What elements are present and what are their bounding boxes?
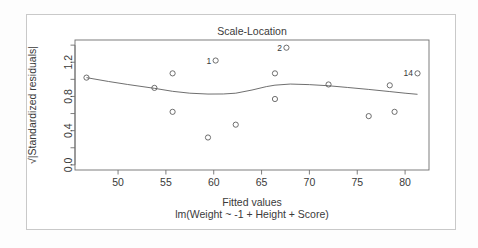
data-point bbox=[233, 122, 238, 127]
chart-title: Scale-Location bbox=[217, 25, 287, 37]
x-tick-label: 55 bbox=[160, 176, 172, 188]
y-tick-label: 0.0 bbox=[62, 157, 74, 172]
point-label: 14 bbox=[404, 68, 414, 78]
y-tick-label: 0.8 bbox=[62, 89, 74, 104]
data-point bbox=[284, 45, 289, 50]
data-point bbox=[392, 109, 397, 114]
data-point bbox=[170, 109, 175, 114]
y-tick-label: 1.2 bbox=[62, 55, 74, 70]
chart-screenshot: 0.00.40.81.2505560657075801214Scale-Loca… bbox=[0, 0, 478, 248]
data-point bbox=[272, 71, 277, 76]
x-tick-label: 60 bbox=[208, 176, 220, 188]
data-point bbox=[387, 83, 392, 88]
data-point bbox=[170, 71, 175, 76]
scale-location-plot: 0.00.40.81.2505560657075801214Scale-Loca… bbox=[0, 0, 478, 248]
x-tick-label: 80 bbox=[399, 176, 411, 188]
x-tick-label: 75 bbox=[351, 176, 363, 188]
loess-smooth-line bbox=[86, 78, 417, 95]
data-point bbox=[326, 82, 331, 87]
y-tick-label: 0.4 bbox=[62, 123, 74, 138]
x-tick-label: 70 bbox=[304, 176, 316, 188]
data-point bbox=[415, 71, 420, 76]
y-axis-title: √|Standardized residuals| bbox=[26, 46, 38, 164]
data-point bbox=[272, 96, 277, 101]
x-axis-subtitle: lm(Weight ~ -1 + Height + Score) bbox=[175, 208, 329, 220]
x-axis-title: Fitted values bbox=[222, 196, 282, 208]
point-label: 2 bbox=[277, 43, 282, 53]
data-point bbox=[213, 58, 218, 63]
point-label: 1 bbox=[206, 56, 211, 66]
plot-frame bbox=[75, 40, 429, 170]
x-tick-label: 50 bbox=[112, 176, 124, 188]
data-point bbox=[366, 114, 371, 119]
data-point bbox=[205, 135, 210, 140]
x-tick-label: 65 bbox=[256, 176, 268, 188]
